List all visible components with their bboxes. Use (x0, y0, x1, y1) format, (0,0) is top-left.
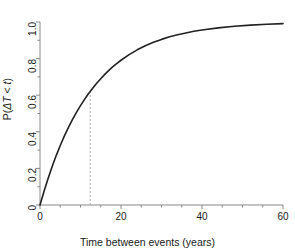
y-tick-label: 0.6 (28, 95, 38, 109)
y-axis-title: P(ΔT < t) (2, 78, 13, 120)
y-axis-title-p: P( (1, 110, 13, 121)
y-axis-title-lt: < (1, 84, 13, 96)
y-tick-label: 0.2 (28, 168, 38, 182)
data-series-line (40, 24, 283, 205)
x-tick-label: 40 (196, 212, 207, 222)
x-tick-label: 0 (37, 212, 43, 222)
y-tick-label: 0.4 (28, 132, 38, 146)
y-tick-label: 0.8 (28, 59, 38, 73)
y-axis-title-t: t (1, 82, 13, 85)
chart-plot-area (0, 0, 295, 251)
chart-tick-marks (36, 22, 283, 209)
y-tick-label: 1.0 (28, 22, 38, 36)
x-tick-label: 60 (277, 212, 288, 222)
y-axis-title-close: ) (1, 78, 13, 82)
x-tick-label: 20 (115, 212, 126, 222)
y-tick-label: 0 (28, 205, 38, 211)
y-axis-title-delta-t: ΔT (1, 96, 13, 109)
x-axis-title: Time between events (years) (0, 237, 295, 248)
chart-container: 0204060 00.20.40.60.81.0 Time between ev… (0, 0, 295, 251)
